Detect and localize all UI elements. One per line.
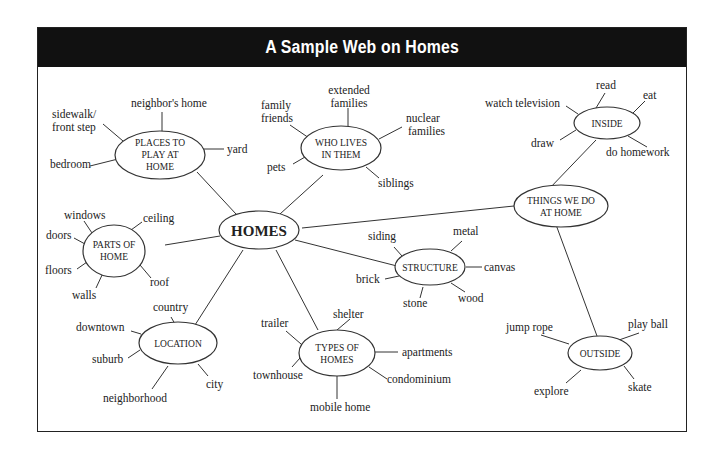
- svg-text:STRUCTURE: STRUCTURE: [402, 263, 458, 273]
- svg-text:suburb: suburb: [92, 353, 124, 365]
- svg-text:PLAY AT: PLAY AT: [141, 150, 178, 160]
- svg-text:PLACES TO: PLACES TO: [135, 138, 185, 148]
- svg-text:brick: brick: [356, 273, 380, 285]
- svg-text:walls: walls: [72, 289, 97, 301]
- svg-text:stone: stone: [403, 297, 427, 309]
- svg-text:neighbor's home: neighbor's home: [131, 97, 207, 110]
- svg-text:yard: yard: [227, 143, 248, 156]
- svg-text:windows: windows: [64, 209, 106, 221]
- svg-text:INSIDE: INSIDE: [591, 119, 622, 129]
- svg-text:bedroom: bedroom: [50, 158, 91, 170]
- places-branch: PLACES TO PLAY AT HOME neighbor's home s…: [50, 97, 248, 179]
- svg-text:mobile home: mobile home: [310, 401, 370, 413]
- svg-text:draw: draw: [531, 137, 555, 149]
- svg-text:TYPES OF: TYPES OF: [315, 343, 359, 353]
- node-types: [299, 330, 375, 376]
- center-label: HOMES: [231, 223, 287, 239]
- svg-text:family: family: [261, 99, 291, 112]
- who-branch: WHO LIVES IN THEM extended families fami…: [261, 84, 446, 190]
- svg-text:families: families: [408, 125, 446, 137]
- svg-text:roof: roof: [150, 276, 169, 288]
- svg-text:families: families: [330, 97, 368, 109]
- svg-text:extended: extended: [328, 84, 370, 96]
- svg-text:apartments: apartments: [402, 346, 453, 359]
- svg-text:doors: doors: [46, 229, 72, 241]
- node-parts: [83, 225, 145, 277]
- svg-text:sidewalk/: sidewalk/: [52, 108, 97, 120]
- svg-text:watch television: watch television: [485, 97, 560, 109]
- svg-text:shelter: shelter: [333, 308, 364, 320]
- svg-text:WHO LIVES: WHO LIVES: [315, 138, 367, 148]
- svg-text:read: read: [596, 79, 616, 91]
- node-who: [301, 126, 381, 170]
- svg-text:condominium: condominium: [387, 373, 451, 385]
- svg-text:siding: siding: [368, 230, 396, 243]
- svg-text:PARTS OF: PARTS OF: [93, 240, 136, 250]
- location-branch: LOCATION country downtown suburb city ne…: [76, 301, 223, 405]
- svg-text:skate: skate: [628, 381, 652, 393]
- svg-text:OUTSIDE: OUTSIDE: [580, 349, 621, 359]
- svg-text:neighborhood: neighborhood: [103, 392, 167, 405]
- concept-web: PLACES TO PLAY AT HOME neighbor's home s…: [0, 0, 719, 457]
- node-things: [514, 185, 608, 227]
- parts-branch: PARTS OF HOME windows ceiling doors floo…: [45, 209, 175, 301]
- svg-text:IN THEM: IN THEM: [321, 150, 361, 160]
- svg-text:siblings: siblings: [378, 177, 414, 190]
- types-branch: TYPES OF HOMES shelter trailer apartment…: [253, 308, 453, 413]
- svg-text:downtown: downtown: [76, 321, 125, 333]
- svg-text:pets: pets: [267, 161, 286, 174]
- svg-text:front step: front step: [52, 121, 96, 134]
- svg-text:LOCATION: LOCATION: [154, 339, 202, 349]
- svg-text:floors: floors: [45, 264, 72, 276]
- svg-text:trailer: trailer: [261, 317, 289, 329]
- svg-text:jump rope: jump rope: [505, 321, 553, 334]
- svg-text:HOMES: HOMES: [320, 355, 353, 365]
- svg-text:AT HOME: AT HOME: [540, 208, 582, 218]
- things-branch: THINGS WE DO AT HOME: [514, 185, 608, 227]
- svg-text:do homework: do homework: [606, 146, 670, 158]
- center-node: HOMES: [219, 211, 299, 249]
- svg-text:play ball: play ball: [628, 318, 668, 331]
- svg-text:canvas: canvas: [484, 261, 516, 273]
- svg-text:townhouse: townhouse: [253, 369, 303, 381]
- svg-text:explore: explore: [534, 385, 568, 398]
- outside-branch: OUTSIDE jump rope play ball explore skat…: [505, 318, 668, 398]
- svg-text:HOME: HOME: [146, 162, 174, 172]
- svg-text:country: country: [153, 301, 188, 314]
- svg-text:wood: wood: [458, 292, 484, 304]
- svg-text:HOME: HOME: [100, 252, 128, 262]
- svg-text:eat: eat: [643, 89, 657, 101]
- inside-branch: INSIDE read eat watch television draw do…: [485, 79, 670, 158]
- svg-text:THINGS WE DO: THINGS WE DO: [527, 196, 595, 206]
- svg-text:metal: metal: [453, 225, 479, 237]
- svg-text:city: city: [206, 378, 223, 391]
- structure-branch: STRUCTURE siding metal canvas brick ston…: [356, 225, 516, 309]
- svg-text:ceiling: ceiling: [143, 212, 175, 225]
- svg-text:nuclear: nuclear: [406, 112, 440, 124]
- svg-text:friends: friends: [261, 112, 293, 124]
